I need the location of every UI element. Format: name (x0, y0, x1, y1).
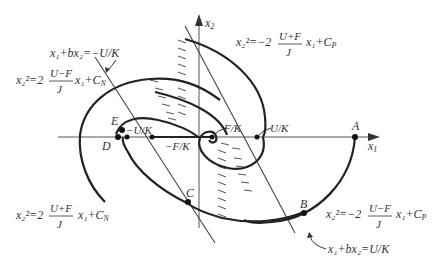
svg-text:x₁+bx₂=U/K: x₁+bx₂=U/K (327, 242, 390, 256)
phase-plane-diagram: x1 x2 A B (0, 0, 444, 264)
label-E: E (110, 114, 119, 128)
x1-axis-label: x1 (367, 139, 377, 154)
svg-text:x₁+CP: x₁+CP (305, 35, 337, 50)
x2-arrow-icon (195, 14, 203, 26)
svg-text:x₂²=2: x₂²=2 (15, 73, 43, 87)
label-D: D (101, 139, 111, 153)
point-A (352, 134, 358, 140)
mark-U-over-K: U/K (270, 122, 289, 134)
mark-neg-U-over-K: −U/K (126, 124, 152, 136)
point-F-over-K (210, 135, 215, 140)
svg-text:x₁+CN: x₁+CN (74, 73, 107, 88)
trajectory-B-to-C (187, 203, 304, 221)
point-E (119, 127, 125, 133)
svg-text:J: J (57, 83, 63, 95)
svg-text:x₂²=−2: x₂²=−2 (325, 207, 361, 221)
point-U-over-K (255, 135, 260, 140)
point-D (115, 134, 121, 140)
svg-text:x₁+bx₂=−U/K: x₁+bx₂=−U/K (49, 46, 120, 60)
svg-text:J: J (376, 218, 382, 230)
switch-line-left (95, 57, 215, 243)
svg-text:U−F: U−F (50, 67, 72, 79)
eq-top-right: x₂²=−2 U+F J x₁+CP (235, 30, 337, 58)
svg-text:U+F: U+F (50, 202, 72, 214)
svg-text:x₁+CP: x₁+CP (395, 207, 427, 222)
svg-text:J: J (286, 46, 292, 58)
svg-text:J: J (57, 218, 63, 230)
mark-neg-F-over-K: −F/K (165, 140, 190, 152)
eq-top-left: x₂²=2 U−F J x₁+CN (15, 67, 107, 95)
svg-text:U−F: U−F (369, 202, 391, 214)
svg-text:x₁+CN: x₁+CN (77, 208, 110, 223)
svg-text:x₂²=2: x₂²=2 (15, 208, 43, 222)
x2-axis-label: x2 (204, 16, 214, 31)
label-C: C (186, 186, 195, 200)
svg-text:U+F: U+F (279, 30, 301, 42)
svg-text:x₂²=−2: x₂²=−2 (235, 35, 271, 49)
eq-bottom-right: x₂²=−2 U−F J x₁+CP (325, 202, 427, 230)
label-A: A (351, 119, 360, 133)
label-B: B (300, 197, 308, 211)
eq-bottom-left: x₂²=2 U+F J x₁+CN (15, 202, 110, 230)
eq-switch-right: x₁+bx₂=U/K (307, 232, 390, 256)
